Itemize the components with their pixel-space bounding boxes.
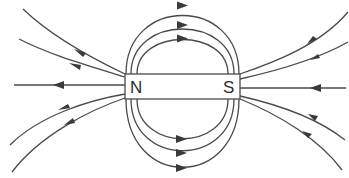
right-field-lines bbox=[240, 12, 348, 170]
bottom-loop-inner bbox=[137, 99, 228, 139]
top-loop-inner bbox=[137, 40, 228, 75]
bottom-field-loops bbox=[126, 99, 239, 172]
south-pole-label: S bbox=[223, 78, 234, 97]
arrow-right-icon bbox=[177, 21, 188, 29]
arrow-right-icon bbox=[176, 135, 187, 143]
left-line-4 bbox=[10, 94, 125, 145]
top-field-loops bbox=[126, 2, 239, 75]
left-field-lines bbox=[10, 9, 125, 172]
north-pole-label: N bbox=[130, 78, 142, 97]
left-line-2 bbox=[19, 39, 125, 77]
magnetic-field-diagram: N S bbox=[0, 0, 349, 178]
right-line-2 bbox=[240, 42, 348, 79]
arrow-left-icon bbox=[302, 131, 312, 138]
right-line-4 bbox=[240, 96, 345, 140]
arrow-left-icon bbox=[310, 54, 320, 60]
arrow-right-icon bbox=[177, 35, 188, 43]
bar-magnet: N S bbox=[125, 74, 240, 99]
arrow-left-icon bbox=[53, 81, 64, 89]
arrow-left-icon bbox=[64, 118, 75, 125]
arrow-left-icon bbox=[310, 84, 321, 92]
right-line-5 bbox=[240, 99, 342, 170]
field-diagram-svg: N S bbox=[0, 0, 349, 178]
arrow-left-icon bbox=[69, 63, 81, 70]
arrow-right-icon bbox=[177, 2, 188, 10]
arrow-right-icon bbox=[176, 164, 187, 172]
